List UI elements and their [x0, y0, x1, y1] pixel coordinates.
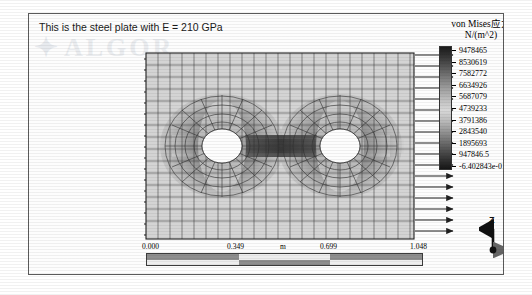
scale-ruler: 0.000 0.349 m 0.699 1.048 [132, 242, 442, 270]
hole-right [320, 129, 360, 163]
ruler-unit-label: m [280, 242, 286, 251]
ruler-tick-label: 1.048 [410, 242, 427, 251]
legend-value: 9478465 [459, 46, 487, 55]
legend-value: 1895693 [459, 139, 487, 148]
ruler-bar [146, 253, 423, 266]
legend-value: 2843540 [459, 127, 487, 136]
viewport-panel: ✦ALGOR This is the steel plate with E = … [28, 13, 504, 275]
legend-tick-dash [452, 50, 456, 51]
ruler-row-bottom [147, 260, 422, 266]
legend-tick-dash [452, 131, 456, 132]
origin-dot [490, 247, 497, 254]
legend-tick-dash [452, 120, 456, 121]
legend-colorbar [439, 46, 452, 170]
z-axis-label: Z [489, 215, 495, 225]
legend-value: 7582772 [459, 69, 487, 78]
algor-logo-icon: ✦ [34, 32, 62, 63]
legend-title-line2: N/(m^2) [433, 30, 504, 41]
legend-tick-dash [452, 108, 456, 109]
legend-tick-list: 9478465 8530619 7582772 6634926 [452, 46, 504, 170]
legend-tick-dash [452, 143, 456, 144]
legend-tick-dash [452, 154, 456, 155]
finite-element-mesh [144, 49, 419, 244]
legend-tick-dash [452, 73, 456, 74]
ruler-labels: 0.000 0.349 m 0.699 1.048 [132, 242, 442, 252]
legend-value: 8530619 [459, 58, 487, 67]
legend-value: 6634926 [459, 81, 487, 90]
model-title-text: This is the steel plate with E = 210 GPa [39, 21, 223, 33]
legend-value: 4739233 [459, 104, 487, 113]
hole-left [202, 129, 242, 163]
ruler-tick-label: 0.349 [227, 242, 244, 251]
legend-body: 9478465 8530619 7582772 6634926 [433, 46, 504, 176]
ruler-tick-label: 0.699 [320, 242, 337, 251]
ruler-tick-label: 0.000 [142, 242, 159, 251]
axis-triad: Z Y [479, 217, 504, 263]
legend-tick-dash [452, 96, 456, 97]
legend-value: 5687079 [459, 92, 487, 101]
legend-value: 947846.5 [459, 150, 489, 159]
legend-value: 3791386 [459, 116, 487, 125]
legend-title-line1: von Mises应力 [433, 19, 504, 30]
legend-value: -6.402843e-010 [459, 162, 504, 171]
model-view[interactable] [144, 49, 454, 254]
legend-tick-dash [452, 62, 456, 63]
screenshot-root: ✦ALGOR This is the steel plate with E = … [0, 0, 532, 295]
stress-legend: von Mises应力 N/(m^2) 9478465 8530619 75 [433, 19, 504, 194]
legend-tick-dash [452, 85, 456, 86]
mesh-svg [144, 49, 419, 244]
legend-tick-dash [452, 166, 456, 167]
